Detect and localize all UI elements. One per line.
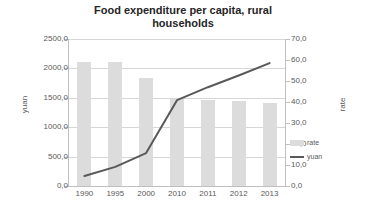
x-tick-label: 2013: [250, 189, 290, 198]
y-tick-label-secondary: 0,0: [291, 181, 331, 190]
y-tick-label-primary: 0,0: [18, 181, 68, 190]
chart-container: Food expenditure per capita, rural house…: [0, 0, 366, 207]
legend-bar-swatch-icon: [290, 140, 304, 146]
line-series-yuan: [69, 39, 285, 186]
x-axis-line: [68, 186, 286, 187]
y-tick-label-secondary: 60,0: [291, 55, 331, 64]
y-tick-secondary: [286, 81, 290, 82]
chart-legend: rate yuan: [290, 137, 322, 165]
legend-item-rate: rate: [290, 137, 322, 148]
y-tick-label-primary: 1500,0: [18, 93, 68, 102]
y-tick-secondary: [286, 60, 290, 61]
y-tick-secondary: [286, 102, 290, 103]
legend-label-yuan: yuan: [307, 153, 322, 160]
y-tick-label-secondary: 30,0: [291, 118, 331, 127]
y-tick-label-secondary: 70,0: [291, 34, 331, 43]
y-axis-label-secondary: rate: [338, 75, 347, 135]
chart-title-line-2: households: [40, 17, 326, 30]
y-tick-label-primary: 2500,0: [18, 34, 68, 43]
y-tick-label-secondary: 40,0: [291, 97, 331, 106]
plot-area: [69, 39, 285, 186]
chart-title: Food expenditure per capita, rural house…: [40, 4, 326, 30]
legend-item-yuan: yuan: [290, 151, 322, 162]
chart-title-line-1: Food expenditure per capita, rural: [40, 4, 326, 17]
y-tick-secondary: [286, 165, 290, 166]
line-path: [84, 63, 269, 176]
y-tick-secondary: [286, 186, 290, 187]
y-tick-label-primary: 1000,0: [18, 122, 68, 131]
y-tick-label-secondary: 50,0: [291, 76, 331, 85]
y-tick-label-primary: 500,0: [18, 152, 68, 161]
y-tick-label-primary: 2000,0: [18, 63, 68, 72]
legend-line-swatch-icon: [290, 156, 304, 158]
y-tick-secondary: [286, 39, 290, 40]
y-tick-secondary: [286, 123, 290, 124]
legend-label-rate: rate: [307, 139, 319, 146]
